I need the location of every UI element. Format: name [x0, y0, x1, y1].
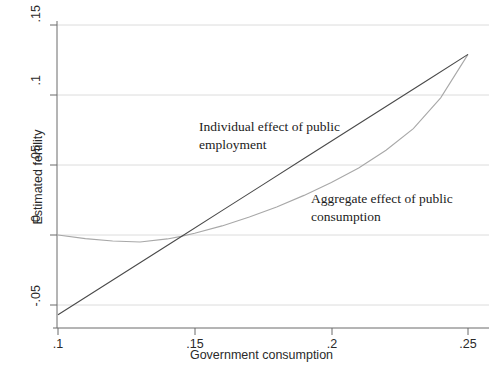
- estimated-fertility-chart: .15 .1 .05 0 -.05 .1 .15 .2 .25 Estimate…: [0, 0, 495, 373]
- y-axis-title: Estimated fertility: [31, 87, 45, 267]
- x-axis: [53, 328, 489, 335]
- x-axis-title: Government consumption: [0, 348, 495, 362]
- y-tick-label-0: .15: [29, 5, 43, 45]
- annotation-individual-effect: Individual effect of public employment: [199, 118, 340, 154]
- gridlines: [57, 25, 489, 305]
- series-line-individual-effect: [58, 54, 468, 314]
- plot-area: [0, 0, 495, 373]
- y-tick-label-4: -.05: [29, 285, 43, 325]
- annotation-aggregate-effect: Aggregate effect of public consumption: [311, 190, 453, 226]
- y-axis: [50, 21, 57, 328]
